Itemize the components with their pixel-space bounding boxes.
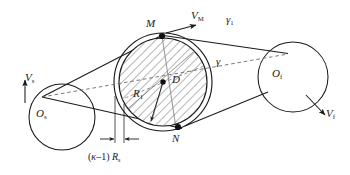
point-m-dot bbox=[159, 33, 165, 39]
right-pulley-label: Of bbox=[272, 68, 282, 81]
belt-drive-figure bbox=[0, 0, 350, 175]
angle-gamma-label: γ bbox=[216, 56, 220, 67]
right-pulley-group bbox=[258, 42, 328, 112]
right-pulley-circle bbox=[258, 42, 328, 112]
dimension-label: (κ–1) Rs bbox=[88, 152, 121, 163]
point-m-label: M bbox=[146, 18, 155, 29]
velocity-right-label: Vf bbox=[326, 108, 335, 121]
diagram-canvas: Os Of D R1 M N Vs Vf VM γ γ1 (κ–1) Rs bbox=[0, 0, 350, 175]
point-n-label: N bbox=[172, 133, 179, 144]
radius-label: R1 bbox=[133, 88, 143, 101]
point-n-dot bbox=[175, 124, 181, 130]
center-point-label: D bbox=[172, 74, 180, 85]
velocity-m-label: VM bbox=[191, 10, 204, 23]
velocity-right-arrow bbox=[306, 95, 325, 115]
center-point-dot bbox=[160, 79, 165, 84]
velocity-m-arrow bbox=[166, 25, 196, 33]
angle-gamma1-label: γ1 bbox=[226, 14, 234, 27]
left-pulley-label: Os bbox=[36, 108, 47, 121]
velocity-left-label: Vs bbox=[25, 72, 34, 85]
